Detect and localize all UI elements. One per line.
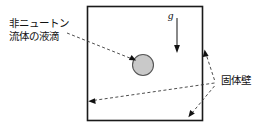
wall-leader-right — [203, 50, 215, 80]
droplet-annotation-line-2: 流体の液滴 — [9, 30, 69, 43]
solid-wall-annotation-label: 固体壁 — [221, 74, 251, 87]
droplet-shape — [133, 55, 154, 76]
droplet-annotation-line-1: 非ニュートン — [9, 17, 69, 30]
figure-canvas: g 非ニュートン 流体の液滴 固体壁 — [0, 0, 265, 131]
gravity-symbol-label: g — [168, 9, 174, 21]
droplet-annotation-label: 非ニュートン 流体の液滴 — [9, 17, 69, 42]
